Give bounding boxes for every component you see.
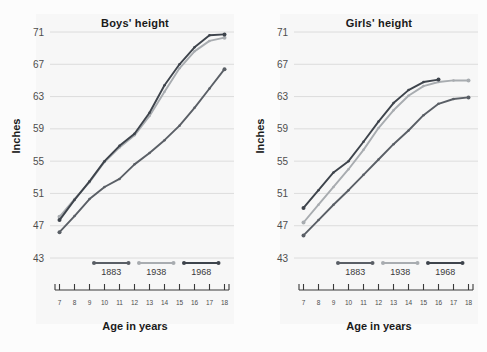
legend-swatch-endpoint (182, 261, 186, 265)
data-point (332, 171, 335, 174)
y-tick-label: 71 (33, 27, 45, 38)
chart-panel-boys: Boys' height Inches Age in years 4347515… (0, 0, 243, 352)
data-point (392, 102, 395, 105)
series-line-1883 (60, 69, 225, 232)
legend-swatch-endpoint (416, 261, 420, 265)
legend-label-1883: 1883 (345, 267, 365, 277)
x-tick-label: 14 (161, 299, 169, 306)
data-point (422, 81, 425, 84)
y-tick-label: 67 (33, 59, 45, 70)
x-tick-label: 11 (360, 299, 367, 306)
legend-label-1968: 1968 (191, 267, 211, 277)
y-tick-label: 55 (33, 156, 45, 167)
y-tick-label: 43 (277, 253, 289, 264)
data-point (88, 198, 91, 201)
x-tick-label: 10 (101, 299, 109, 306)
data-point (347, 160, 350, 163)
x-tick-label: 14 (405, 299, 413, 306)
y-tick-label: 59 (277, 123, 289, 134)
data-point (422, 85, 425, 88)
data-point (362, 141, 365, 144)
x-tick-label: 12 (375, 299, 383, 306)
data-point (317, 189, 320, 192)
x-tick-label: 9 (332, 299, 336, 306)
data-point (148, 111, 151, 114)
data-point (377, 127, 380, 130)
x-tick-label: 18 (221, 299, 229, 306)
legend-swatch-endpoint (461, 261, 465, 265)
legend-swatch-endpoint (92, 261, 96, 265)
legend-swatch-endpoint (127, 261, 131, 265)
legend-swatch-endpoint (371, 261, 375, 265)
data-point (362, 174, 365, 177)
x-tick-label: 9 (88, 299, 92, 306)
data-point (208, 34, 211, 37)
data-point (347, 168, 350, 171)
data-point (58, 230, 62, 234)
legend-label-1938: 1938 (390, 267, 410, 277)
legend-swatch-endpoint (381, 261, 385, 265)
y-tick-label: 67 (277, 59, 289, 70)
plot-svg-girls: 4347515559636771789101112131415161718188… (244, 0, 487, 352)
data-point (193, 50, 196, 53)
x-tick-label: 15 (176, 299, 184, 306)
series-line-1968 (60, 34, 225, 220)
data-point (193, 107, 196, 110)
data-point (73, 215, 76, 218)
data-point (392, 143, 395, 146)
data-point (302, 233, 306, 237)
data-point (407, 129, 410, 132)
legend-label-1883: 1883 (101, 267, 121, 277)
plot-svg-boys: 4347515559636771789101112131415161718188… (0, 0, 243, 352)
data-point (193, 46, 196, 49)
data-point (133, 132, 136, 135)
data-point (88, 180, 91, 183)
legend-label-1938: 1938 (146, 267, 166, 277)
data-point (163, 90, 166, 93)
legend-swatch-endpoint (137, 261, 141, 265)
data-point (178, 67, 181, 70)
data-point (133, 163, 136, 166)
legend-swatch-endpoint (336, 261, 340, 265)
data-point (148, 152, 151, 155)
y-tick-label: 47 (33, 220, 45, 231)
data-point (467, 95, 471, 99)
data-point (407, 89, 410, 92)
data-point (302, 206, 306, 210)
y-tick-label: 71 (277, 27, 289, 38)
data-point (208, 87, 211, 90)
data-point (58, 218, 62, 222)
y-tick-label: 63 (277, 91, 289, 102)
data-point (467, 78, 471, 82)
data-point (452, 79, 455, 82)
x-tick-label: 17 (450, 299, 458, 306)
data-point (377, 158, 380, 161)
x-tick-label: 12 (131, 299, 139, 306)
x-tick-label: 16 (435, 299, 443, 306)
data-point (407, 95, 410, 98)
data-point (223, 67, 227, 71)
x-tick-label: 13 (390, 299, 398, 306)
data-point (103, 186, 106, 189)
x-tick-label: 15 (420, 299, 428, 306)
chart-panel-girls: Girls' height Inches Age in years 434751… (244, 0, 487, 352)
data-point (223, 32, 227, 36)
x-tick-label: 16 (191, 299, 199, 306)
data-point (302, 220, 306, 224)
x-tick-label: 7 (302, 299, 306, 306)
data-point (178, 63, 181, 66)
data-point (73, 199, 76, 202)
data-point (163, 84, 166, 87)
y-tick-label: 51 (277, 188, 289, 199)
data-point (118, 178, 121, 181)
y-tick-label: 51 (33, 188, 45, 199)
x-tick-label: 10 (345, 299, 353, 306)
x-tick-label: 7 (58, 299, 62, 306)
series-line-1968 (304, 80, 439, 208)
data-point (208, 40, 211, 43)
legend-swatch-endpoint (426, 261, 430, 265)
x-tick-label: 8 (317, 299, 321, 306)
data-point (103, 160, 106, 163)
data-point (332, 203, 335, 206)
y-tick-label: 55 (277, 156, 289, 167)
